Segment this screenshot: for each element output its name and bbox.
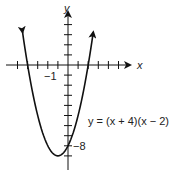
parabola-graph: x y −1 −8 y = (x + 4)(x − 2) xyxy=(0,0,176,174)
y-axis-label: y xyxy=(63,2,71,14)
equation-label: y = (x + 4)(x − 2) xyxy=(88,115,169,127)
x-tick-label-minus-1: −1 xyxy=(44,70,57,82)
parabola-curve xyxy=(23,32,94,156)
x-axis-label: x xyxy=(136,59,143,71)
y-tick-label-minus-8: −8 xyxy=(73,140,86,152)
